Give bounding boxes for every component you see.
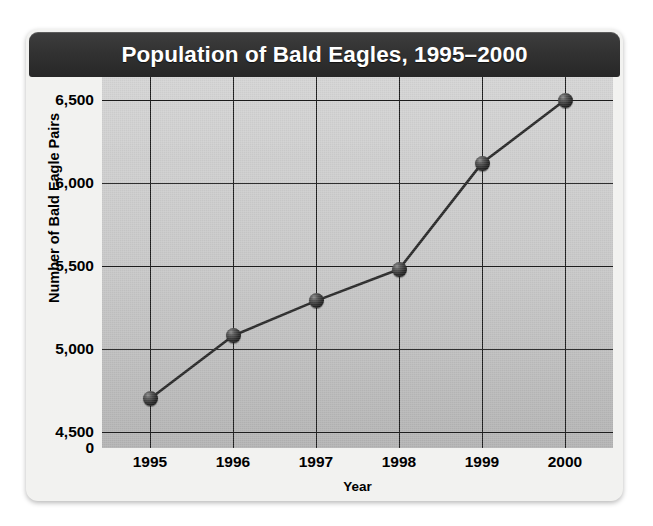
- data-point-marker: [558, 93, 573, 108]
- data-point-marker: [226, 328, 241, 343]
- data-point-marker: [309, 293, 324, 308]
- x-axis-tick-label: 1995: [105, 453, 195, 471]
- data-point-marker: [475, 156, 490, 171]
- x-axis-tick-label: 1999: [437, 453, 527, 471]
- x-axis-title: Year: [102, 479, 613, 494]
- series-polyline: [150, 100, 565, 399]
- y-axis-tick-label: 5,000: [26, 340, 94, 358]
- x-axis-tick-label: 2000: [520, 453, 610, 471]
- chart-title: Population of Bald Eagles, 1995–2000: [121, 42, 527, 68]
- chart-title-bar: Population of Bald Eagles, 1995–2000: [29, 32, 620, 77]
- x-axis-tick-labels: 199519961997199819992000: [102, 453, 613, 475]
- x-axis-tick-label: 1996: [188, 453, 278, 471]
- y-axis-title: Number of Bald Eagle Pairs: [46, 88, 62, 328]
- chart-card: Population of Bald Eagles, 1995–2000 6,5…: [26, 29, 623, 501]
- data-point-marker: [143, 391, 158, 406]
- data-point-marker: [392, 262, 407, 277]
- line-series: [102, 77, 613, 448]
- plot-area: [102, 77, 613, 448]
- y-axis-tick-label: 0: [26, 439, 94, 457]
- x-axis-tick-label: 1997: [271, 453, 361, 471]
- x-axis-tick-label: 1998: [354, 453, 444, 471]
